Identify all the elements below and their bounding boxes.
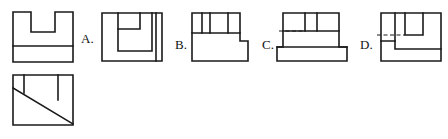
option-a-outline — [102, 13, 162, 61]
option-d-outline — [381, 13, 441, 61]
top-view-diagonal — [13, 88, 73, 124]
option-a-inner-large-rect — [118, 13, 152, 51]
option-d-figure[interactable] — [375, 7, 447, 69]
option-b-figure[interactable] — [186, 7, 260, 69]
option-a-inner-small-rect — [118, 13, 140, 29]
option-label-a: A. — [81, 32, 94, 45]
option-c-outline — [277, 13, 347, 61]
front-view-u-shape — [6, 6, 82, 70]
option-d-inner-rect — [405, 13, 423, 35]
option-b-outline — [192, 13, 248, 61]
option-d-step-path — [381, 41, 441, 49]
top-view-outline — [13, 75, 73, 125]
top-view-with-diagonal — [6, 69, 82, 133]
option-label-c: C. — [262, 38, 274, 51]
option-a-figure[interactable] — [96, 7, 170, 69]
drawing-sheet: A. B. — [0, 0, 448, 139]
option-c-figure[interactable] — [277, 7, 353, 69]
option-label-d: D. — [360, 38, 373, 51]
front-view-outline — [13, 12, 73, 62]
